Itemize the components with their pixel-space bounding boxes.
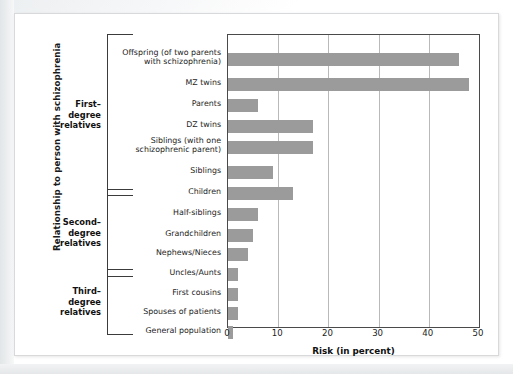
bar [228, 166, 273, 179]
group-label: Third–degreerelatives [35, 286, 101, 318]
group-bracket-column: First–degreerelativesSecond–degreerelati… [35, 34, 140, 334]
group-label-line: degree [35, 297, 101, 308]
x-tick-label: 10 [272, 328, 283, 338]
category-label-line: Siblings (with one [135, 136, 221, 145]
category-label: Offspring (of two parentswith schizophre… [122, 48, 221, 66]
category-label-line: Half-siblings [173, 208, 221, 217]
category-label: Children [188, 187, 221, 196]
category-label-line: Uncles/Aunts [169, 268, 221, 277]
category-label: Spouses of patients [143, 307, 221, 316]
category-label: General population [145, 326, 221, 335]
bar [228, 208, 258, 221]
category-label-line: schizophrenic parent) [135, 145, 221, 154]
x-tick-label: 0 [224, 328, 229, 338]
category-label-line: First cousins [172, 288, 221, 297]
group-label: Second–degreerelatives [35, 217, 101, 249]
x-axis-tick-labels: 01020304050 [227, 328, 480, 342]
group-label-line: degree [35, 228, 101, 239]
category-label: First cousins [172, 288, 221, 297]
category-label: Half-siblings [173, 208, 221, 217]
category-label: Grandchildren [165, 229, 221, 238]
category-label: Nephews/Nieces [156, 248, 221, 257]
bar [228, 288, 238, 301]
plot-area [227, 34, 480, 328]
group-second-degree: Second–degreerelatives [35, 189, 140, 277]
category-label-line: Children [188, 187, 221, 196]
x-axis-title: Risk (in percent) [227, 346, 480, 356]
bar [228, 248, 248, 261]
category-label: Siblings [190, 166, 221, 175]
bar [228, 187, 293, 200]
group-label-line: degree [35, 110, 101, 121]
category-label: Siblings (with oneschizophrenic parent) [135, 136, 221, 154]
x-tick-label: 50 [473, 328, 484, 338]
group-label: First–degreerelatives [35, 99, 101, 131]
bar [228, 99, 258, 112]
group-label-line: relatives [35, 120, 101, 131]
bar [228, 78, 469, 91]
category-label-line: with schizophrenia) [122, 57, 221, 66]
category-label-column: Offspring (of two parentswith schizophre… [133, 34, 224, 326]
category-label-line: DZ twins [186, 120, 221, 129]
category-label-line: Siblings [190, 166, 221, 175]
group-bracket [107, 269, 133, 335]
bar [228, 307, 238, 320]
category-label-line: General population [145, 326, 221, 335]
group-label-line: relatives [35, 238, 101, 249]
chart-area: Offspring (of two parentswith schizophre… [133, 34, 488, 347]
x-tick-label: 30 [372, 328, 383, 338]
category-label-line: MZ twins [185, 78, 221, 87]
group-bracket [107, 189, 133, 277]
scan-left-edge [0, 0, 14, 374]
bar [228, 53, 459, 66]
group-label-line: Second– [35, 217, 101, 228]
x-tick-label: 20 [322, 328, 333, 338]
scan-bottom-edge [0, 364, 513, 374]
category-label: Uncles/Aunts [169, 268, 221, 277]
group-label-line: First– [35, 99, 101, 110]
category-label-line: Nephews/Nieces [156, 248, 221, 257]
bar [228, 120, 313, 133]
bar [228, 141, 313, 154]
category-label-line: Parents [192, 99, 221, 108]
group-label-line: relatives [35, 307, 101, 318]
category-label-line: Grandchildren [165, 229, 221, 238]
group-label-line: Third– [35, 286, 101, 297]
group-third-degree: Third–degreerelatives [35, 269, 140, 335]
bar [228, 229, 253, 242]
figure-card: Relationship to person with schizophreni… [14, 13, 499, 356]
bar [228, 268, 238, 281]
category-label-line: Spouses of patients [143, 307, 221, 316]
category-label: MZ twins [185, 78, 221, 87]
category-label: Parents [192, 99, 221, 108]
category-label: DZ twins [186, 120, 221, 129]
x-tick-label: 40 [422, 328, 433, 338]
category-label-line: Offspring (of two parents [122, 48, 221, 57]
